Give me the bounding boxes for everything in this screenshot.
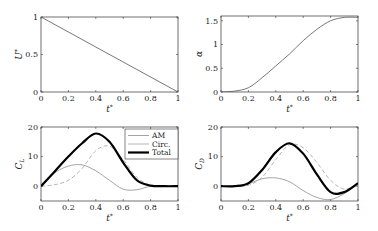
panel-CL: 00.20.40.60.8101020t*CLAMCirc.Total	[14, 123, 181, 223]
y-tick-label: 0	[33, 88, 38, 97]
x-tick-label: 0.6	[297, 94, 310, 103]
legend-label: Total	[152, 148, 171, 157]
axes-box	[221, 127, 358, 201]
x-tick-label: 0.4	[89, 203, 102, 212]
panel-U: 00.20.40.60.8100.51t*U*	[13, 13, 181, 114]
x-tick-label: 0	[38, 94, 43, 103]
x-tick-label: 1	[175, 94, 180, 103]
x-tick-label: 0.6	[117, 94, 130, 103]
x-axis-label: t*	[286, 103, 293, 114]
y-axis-label: α	[194, 51, 204, 57]
x-tick-label: 0	[218, 203, 223, 212]
panel-CD: 00.20.40.60.8101020t*CD	[194, 123, 361, 223]
legend: AMCirc.Total	[125, 129, 178, 159]
x-tick-label: 1	[175, 203, 180, 212]
y-tick-label: 0.5	[205, 64, 218, 73]
x-tick-label: 1	[355, 94, 360, 103]
y-tick-label: 10	[28, 152, 38, 161]
x-tick-label: 0.8	[144, 94, 157, 103]
x-tick-label: 0.2	[62, 203, 75, 212]
x-tick-label: 0.2	[242, 94, 255, 103]
series-line-u	[41, 17, 178, 92]
y-tick-label: 0.5	[25, 50, 38, 59]
figure: 00.20.40.60.8100.51t*U*00.20.40.60.8100.…	[0, 0, 378, 231]
x-tick-label: 0.8	[324, 203, 337, 212]
y-axis-label: U*	[13, 49, 24, 60]
y-tick-label: 10	[208, 152, 218, 161]
x-tick-label: 0.8	[144, 203, 157, 212]
series-line-am	[221, 178, 358, 200]
y-tick-label: 1.5	[205, 17, 218, 26]
y-tick-label: 20	[28, 123, 38, 132]
y-tick-label: 1	[213, 40, 218, 49]
x-axis-label: t*	[106, 212, 113, 223]
x-tick-label: 0.2	[242, 203, 255, 212]
x-tick-label: 1	[355, 203, 360, 212]
y-tick-label: 0	[213, 182, 218, 191]
x-axis-label: t*	[106, 103, 113, 114]
y-axis-label: CL	[14, 159, 25, 170]
series-line-circ	[221, 144, 358, 189]
panel-alpha: 00.20.40.60.8100.511.5t*α	[194, 16, 361, 114]
series-line-	[221, 17, 358, 92]
x-tick-label: 0.2	[62, 94, 75, 103]
y-axis-label: CD	[194, 158, 205, 170]
x-tick-label: 0.4	[269, 94, 282, 103]
y-tick-label: 1	[33, 13, 38, 22]
x-axis-label: t*	[286, 212, 293, 223]
y-tick-label: 20	[208, 123, 218, 132]
y-tick-label: 0	[33, 182, 38, 191]
x-tick-label: 0.6	[117, 203, 130, 212]
x-tick-label: 0.4	[269, 203, 282, 212]
x-tick-label: 0.8	[324, 94, 337, 103]
x-tick-label: 0.4	[89, 94, 102, 103]
x-tick-label: 0	[218, 94, 223, 103]
x-tick-label: 0.6	[297, 203, 310, 212]
y-tick-label: 0	[213, 88, 218, 97]
x-tick-label: 0	[38, 203, 43, 212]
